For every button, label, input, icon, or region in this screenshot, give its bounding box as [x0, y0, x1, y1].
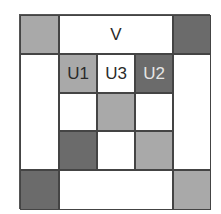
cell-bottom-right-corner — [173, 170, 211, 210]
cell-bottom-left-corner — [20, 170, 59, 210]
cell-inner-r3c3 — [135, 131, 173, 170]
cell-inner-r3c2 — [97, 131, 135, 170]
cell-inner-r2c2 — [97, 93, 135, 131]
grid-diagram: VU1U3U2 — [19, 14, 210, 209]
cell-right-span — [173, 54, 211, 170]
cell-top-span: V — [59, 15, 173, 54]
cell-inner-r2c1 — [59, 93, 97, 131]
cell-label: U1 — [67, 64, 89, 84]
cell-inner-r1c3: U2 — [135, 54, 173, 93]
cell-inner-r3c1 — [59, 131, 97, 170]
cell-inner-r2c3 — [135, 93, 173, 131]
cell-top-right-corner — [173, 15, 211, 54]
cell-bottom-span — [59, 170, 173, 210]
cell-label: V — [110, 25, 121, 45]
cell-left-span — [20, 54, 59, 170]
cell-label: U2 — [143, 64, 165, 84]
cell-top-left-corner — [20, 15, 59, 54]
cell-inner-r1c2: U3 — [97, 54, 135, 93]
cell-inner-r1c1: U1 — [59, 54, 97, 93]
cell-label: U3 — [105, 64, 127, 84]
